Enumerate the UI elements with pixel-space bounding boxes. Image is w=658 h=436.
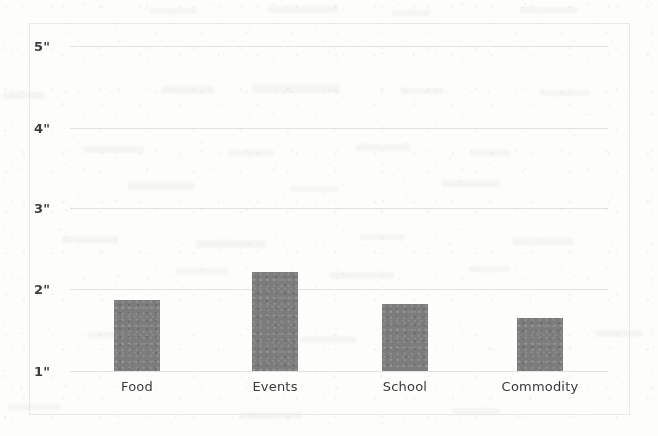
bleedthrough-mark bbox=[392, 10, 430, 16]
scanned-page: 5" 4" 3" 2" 1" Food Events School Commod… bbox=[0, 0, 658, 436]
bleedthrough-mark bbox=[268, 6, 338, 13]
bleedthrough-mark bbox=[150, 8, 196, 14]
chart-border bbox=[29, 23, 630, 415]
bleedthrough-mark bbox=[520, 7, 578, 13]
